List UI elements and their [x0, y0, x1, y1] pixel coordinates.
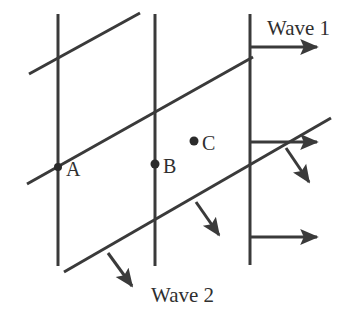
wave-1-label: Wave 1 — [267, 16, 330, 40]
diagram-text-group: A B C Wave 1 Wave 2 — [66, 16, 330, 307]
wave-2-label: Wave 2 — [151, 283, 214, 307]
wave2-propagation-arrow-left — [108, 253, 132, 286]
wave2-propagation-arrow-group — [108, 148, 309, 286]
wave-diagram-container: A B C Wave 1 Wave 2 — [0, 0, 349, 328]
wave2-propagation-arrow-right — [286, 148, 309, 182]
wave-diagram-canvas: A B C Wave 1 Wave 2 — [0, 0, 349, 328]
point-b-dot — [151, 160, 160, 169]
wave1-propagation-arrow-group — [250, 47, 317, 237]
wave1-wavefront-group — [58, 14, 250, 266]
point-c-dot — [190, 137, 199, 146]
point-c-label: C — [202, 132, 215, 154]
wavefront-line-diagonal-top — [29, 13, 140, 74]
wave2-propagation-arrow-middle — [196, 202, 219, 235]
point-a-dot — [54, 163, 62, 171]
point-a-label: A — [66, 158, 81, 180]
point-b-label: B — [163, 155, 176, 177]
